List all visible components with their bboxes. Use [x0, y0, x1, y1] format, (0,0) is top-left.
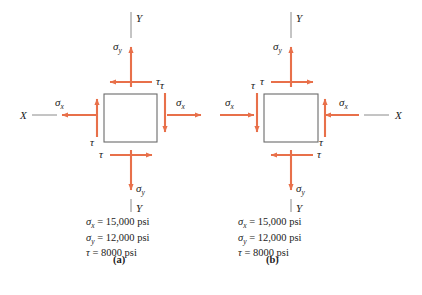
caption-line-sigma-x: σx = 15,000 psi	[86, 216, 149, 232]
sigma-x-left-label: σx	[55, 96, 64, 111]
panel-tag-b: (b)	[266, 254, 279, 265]
stress-element-figure: Y σy τ σx X τ σx τ τ	[0, 0, 422, 295]
sigma-y-top-label: σy	[113, 40, 122, 55]
panel-b-drawing: Y σy τ σx τ σx X τ τ	[211, 0, 422, 215]
stress-element-square	[264, 94, 318, 142]
stress-element-square	[104, 94, 157, 142]
tau-bottom-label: τ	[99, 148, 104, 160]
tau-bottom-label: τ	[317, 148, 322, 160]
tau-right-label: τ	[160, 79, 165, 91]
tau-top-label: τ	[260, 75, 265, 87]
caption-line-sigma-x: σx = 15,000 psi	[238, 216, 301, 232]
y-axis-label-bottom: Y	[296, 202, 304, 214]
panel-tag-a: (a)	[113, 254, 125, 265]
y-axis-label-top: Y	[136, 12, 144, 24]
stress-diagram-panel-b: Y σy τ σx τ σx X τ τ	[211, 0, 422, 295]
caption-line-sigma-y: σy = 12,000 psi	[86, 232, 149, 248]
sigma-x-right-label: σx	[339, 96, 348, 111]
sigma-x-right-label: σx	[176, 96, 185, 111]
x-axis-label-left: X	[19, 109, 28, 121]
tau-left-label: τ	[251, 79, 256, 91]
y-axis-label-bottom: Y	[136, 202, 144, 214]
caption-panel-a: σx = 15,000 psi σy = 12,000 psi τ = 8000…	[86, 216, 149, 259]
x-axis-label-right: X	[394, 109, 403, 121]
panel-a-drawing: Y σy τ σx X τ σx τ τ	[0, 0, 211, 215]
sigma-x-left-label: σx	[225, 96, 234, 111]
tau-left-label: τ	[90, 136, 95, 148]
sigma-y-bottom-label: σy	[136, 182, 145, 197]
tau-right-label: τ	[319, 136, 324, 148]
stress-diagram-panel-a: Y σy τ σx X τ σx τ τ	[0, 0, 211, 295]
y-axis-label-top: Y	[296, 12, 304, 24]
sigma-y-top-label: σy	[273, 40, 282, 55]
sigma-y-bottom-label: σy	[296, 182, 305, 197]
caption-panel-b: σx = 15,000 psi σy = 12,000 psi τ = 8000…	[238, 216, 301, 259]
caption-line-sigma-y: σy = 12,000 psi	[238, 232, 301, 248]
